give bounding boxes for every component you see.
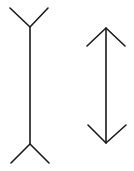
left-top-fins [10, 8, 48, 27]
muller-lyer-diagram [0, 0, 134, 171]
left-bottom-fins [11, 144, 49, 163]
right-bottom-arrowhead [88, 125, 126, 143]
figure-fins-outward [10, 8, 49, 163]
figure-arrowheads-inward [87, 28, 126, 143]
